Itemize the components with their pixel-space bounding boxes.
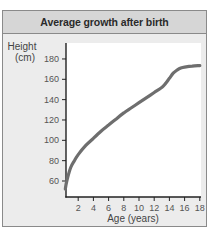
y-tick-label: 160 — [44, 74, 59, 84]
x-tick-label: 6 — [106, 203, 111, 213]
x-tick-label: 12 — [149, 203, 159, 213]
y-axis: 6080100120140160180 — [44, 43, 66, 198]
y-axis-title: Height(cm) — [8, 41, 37, 63]
y-tick-label: 140 — [44, 95, 59, 105]
plot-area — [66, 43, 201, 197]
x-tick-label: 2 — [76, 203, 81, 213]
x-tick-label: 16 — [180, 203, 190, 213]
svg-text:Height: Height — [8, 41, 37, 52]
line-chart: Height(cm) 6080100120140160180 246810121… — [0, 0, 224, 237]
x-tick-label: 18 — [195, 203, 205, 213]
y-tick-label: 80 — [49, 156, 59, 166]
x-tick-label: 4 — [91, 203, 96, 213]
x-axis: 24681012141618 — [65, 197, 205, 213]
x-tick-label: 8 — [121, 203, 126, 213]
x-tick-label: 14 — [164, 203, 174, 213]
y-tick-label: 60 — [49, 176, 59, 186]
y-tick-label: 100 — [44, 135, 59, 145]
x-tick-label: 10 — [134, 203, 144, 213]
svg-text:(cm): (cm) — [15, 52, 35, 63]
y-tick-label: 180 — [44, 54, 59, 64]
x-axis-title: Age (years) — [107, 213, 159, 224]
y-tick-label: 120 — [44, 115, 59, 125]
